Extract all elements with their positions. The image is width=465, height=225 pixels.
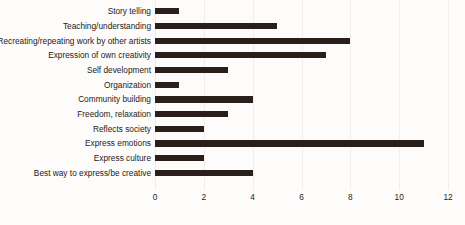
bar-5 [155,82,179,88]
x-axis: 024681012 [0,190,465,210]
bar-row: Reflects society [0,122,465,137]
bar-row: Story telling [0,4,465,19]
x-tick-label-1: 2 [202,192,207,202]
category-label-2: Recreating/repeating work by other artis… [0,33,151,48]
bar-8 [155,126,204,132]
category-label-8: Reflects society [0,122,151,137]
bar-11 [155,170,253,176]
x-tick-label-6: 12 [443,192,452,202]
bar-row: Organization [0,77,465,92]
category-label-text: Self development [87,66,151,74]
bar-10 [155,155,204,161]
category-label-5: Organization [0,77,151,92]
category-label-text: Express emotions [85,139,151,147]
x-tick-label-4: 8 [348,192,353,202]
category-label-9: Express emotions [0,136,151,151]
category-label-6: Community building [0,92,151,107]
category-label-text: Organization [104,81,151,89]
category-label-text: Story telling [108,7,151,15]
x-tick-label-3: 6 [299,192,304,202]
category-label-1: Teaching/understanding [0,19,151,34]
bar-7 [155,111,228,117]
category-label-7: Freedom, relaxation [0,107,151,122]
bar-row: Express culture [0,151,465,166]
category-label-text: Teaching/understanding [63,22,151,30]
category-label-3: Expression of own creativity [0,48,151,63]
x-tick-label-2: 4 [250,192,255,202]
bar-chart: Story tellingTeaching/understandingRecre… [0,0,465,225]
bar-row: Express emotions [0,136,465,151]
bar-9 [155,140,424,146]
bar-row: Recreating/repeating work by other artis… [0,33,465,48]
bar-row: Self development [0,63,465,78]
x-tick-label-5: 10 [395,192,404,202]
bar-2 [155,38,350,44]
bar-row: Best way to express/be creative [0,166,465,181]
bar-row: Teaching/understanding [0,19,465,34]
bar-4 [155,67,228,73]
category-label-text: Freedom, relaxation [77,110,151,118]
bar-row: Expression of own creativity [0,48,465,63]
category-label-text: Community building [78,95,151,103]
bar-row: Community building [0,92,465,107]
category-label-text: Best way to express/be creative [34,169,151,177]
plot-area: Story tellingTeaching/understandingRecre… [0,0,465,225]
bar-0 [155,8,179,14]
category-label-10: Express culture [0,151,151,166]
category-label-4: Self development [0,63,151,78]
category-label-0: Story telling [0,4,151,19]
category-label-text: Recreating/repeating work by other artis… [0,37,151,45]
category-label-text: Reflects society [93,125,151,133]
bar-3 [155,52,326,58]
category-label-text: Expression of own creativity [48,51,151,59]
x-tick-label-0: 0 [153,192,158,202]
bar-rows: Story tellingTeaching/understandingRecre… [0,4,465,180]
bar-6 [155,96,253,102]
bar-row: Freedom, relaxation [0,107,465,122]
category-label-text: Express culture [94,154,151,162]
bar-1 [155,23,277,29]
category-label-11: Best way to express/be creative [0,166,151,181]
